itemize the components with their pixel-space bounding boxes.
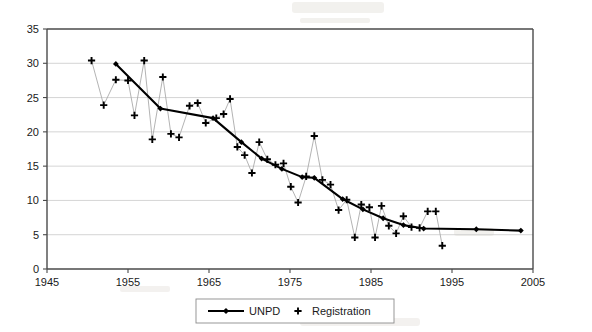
x-tick-label: 1955 [116,276,140,288]
y-tick-label: 0 [33,263,39,275]
x-tick-label: 1965 [197,276,221,288]
y-tick-label: 15 [27,160,39,172]
legend-item-label-unpd: UNPD [249,305,280,317]
y-tick-label: 20 [27,126,39,138]
x-tick-label: 2005 [521,276,545,288]
x-tick-label: 1975 [278,276,302,288]
x-tick-label: 1985 [359,276,383,288]
chart-legend: UNPD Registration [196,299,394,323]
chart-figure: 0510152025303519451955196519751985199520… [0,0,592,332]
y-tick-label: 30 [27,57,39,69]
x-tick-label: 1945 [35,276,59,288]
legend-item-label-registration: Registration [312,305,371,317]
y-tick-label: 35 [27,23,39,35]
y-tick-label: 5 [33,229,39,241]
y-tick-label: 10 [27,194,39,206]
x-tick-label: 1995 [440,276,464,288]
y-tick-label: 25 [27,92,39,104]
